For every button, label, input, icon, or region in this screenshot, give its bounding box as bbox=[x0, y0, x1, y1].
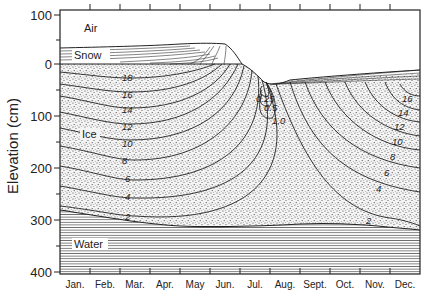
svg-text:16: 16 bbox=[402, 93, 413, 104]
svg-text:300: 300 bbox=[30, 213, 52, 228]
y-tick-labels: 100 0 100 200 300 400 bbox=[30, 8, 52, 280]
x-tick-labels: Jan. Feb. Mar. Apr. May Jun. Jul. Aug. S… bbox=[66, 279, 416, 290]
svg-text:18: 18 bbox=[122, 72, 133, 83]
svg-text:6: 6 bbox=[384, 167, 390, 178]
svg-text:100: 100 bbox=[30, 8, 52, 23]
y-ticks bbox=[54, 15, 60, 272]
svg-text:Mar.: Mar. bbox=[125, 279, 144, 290]
label-ice: Ice bbox=[82, 128, 97, 140]
svg-text:10: 10 bbox=[392, 136, 403, 147]
ice-region bbox=[60, 64, 420, 230]
svg-text:1.0: 1.0 bbox=[272, 115, 286, 126]
svg-text:Jan.: Jan. bbox=[66, 279, 85, 290]
svg-text:Jul.: Jul. bbox=[247, 279, 263, 290]
label-snow: Snow bbox=[74, 49, 102, 61]
svg-text:0: 0 bbox=[45, 57, 52, 72]
contour-chart: Air Snow Ice Water 18 16 14 12 10 8 6 4 … bbox=[0, 0, 423, 294]
svg-text:2: 2 bbox=[124, 211, 131, 222]
svg-text:14: 14 bbox=[398, 107, 409, 118]
svg-text:Dec.: Dec. bbox=[395, 279, 416, 290]
svg-text:200: 200 bbox=[30, 161, 52, 176]
svg-text:Nov.: Nov. bbox=[365, 279, 385, 290]
svg-text:4: 4 bbox=[125, 191, 130, 202]
y-axis-label: Elevation (cm) bbox=[4, 98, 21, 194]
svg-text:Apr.: Apr. bbox=[156, 279, 174, 290]
svg-text:12: 12 bbox=[394, 121, 405, 132]
svg-text:Feb.: Feb. bbox=[95, 279, 115, 290]
label-water: Water bbox=[74, 238, 103, 250]
svg-text:10: 10 bbox=[122, 138, 133, 149]
svg-text:Aug.: Aug. bbox=[275, 279, 296, 290]
svg-text:Jun.: Jun. bbox=[216, 279, 235, 290]
svg-text:4: 4 bbox=[376, 183, 381, 194]
label-air: Air bbox=[84, 22, 98, 34]
svg-text:400: 400 bbox=[30, 265, 52, 280]
svg-text:16: 16 bbox=[122, 89, 133, 100]
svg-text:2: 2 bbox=[365, 215, 372, 226]
svg-text:8: 8 bbox=[390, 151, 396, 162]
svg-text:May: May bbox=[186, 279, 205, 290]
svg-text:Oct.: Oct. bbox=[336, 279, 354, 290]
svg-text:100: 100 bbox=[30, 109, 52, 124]
svg-text:0.5: 0.5 bbox=[264, 102, 278, 113]
svg-text:8: 8 bbox=[122, 155, 128, 166]
svg-text:6: 6 bbox=[125, 173, 131, 184]
svg-text:14: 14 bbox=[122, 104, 133, 115]
svg-text:Sept.: Sept. bbox=[303, 279, 326, 290]
svg-text:12: 12 bbox=[122, 121, 133, 132]
top-ticks bbox=[90, 4, 390, 10]
